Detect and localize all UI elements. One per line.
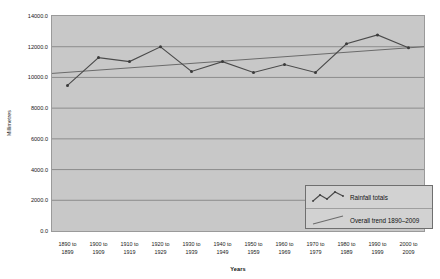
y-tick-label: 10000.0	[4, 74, 48, 80]
data-point-marker	[97, 56, 100, 59]
data-point-marker	[283, 63, 286, 66]
x-tick-label: 1930 to1939	[183, 240, 201, 256]
trend-line-path	[52, 47, 424, 74]
data-point-marker	[159, 45, 162, 48]
legend-label-rainfall-totals: Rainfall totals	[350, 194, 388, 201]
data-point-marker	[407, 46, 410, 49]
data-point-marker	[314, 71, 317, 74]
data-point-marker	[376, 33, 379, 36]
legend-item-overall-trend: Overall trend 1890–2009	[306, 208, 432, 231]
y-tick-label: 2000.0	[4, 197, 48, 203]
data-point-marker	[190, 70, 193, 73]
x-tick-label: 1940 to1949	[214, 240, 232, 256]
data-point-marker	[66, 84, 69, 87]
data-point-marker	[128, 60, 131, 63]
y-tick-label: 14000.0	[4, 13, 48, 19]
x-tick-label: 1980 to1989	[338, 240, 356, 256]
chart-legend: Rainfall totals Overall trend 1890–2009	[305, 185, 433, 229]
y-tick-label: 4000.0	[4, 167, 48, 173]
x-tick-label: 1950 to1959	[245, 240, 263, 256]
y-tick-label: 0.0	[4, 228, 48, 234]
legend-swatch-straight-line-icon	[311, 213, 345, 227]
x-tick-label: 1990 to1999	[369, 240, 387, 256]
trend-line-series	[52, 47, 424, 74]
x-tick-label: 1890 to1899	[59, 240, 77, 256]
x-tick-label: 1970 to1979	[307, 240, 325, 256]
x-tick-label: 1960 to1969	[276, 240, 294, 256]
data-point-marker	[221, 60, 224, 63]
x-tick-label: 1910 to1919	[121, 240, 139, 256]
x-tick-label: 1900 to1909	[90, 240, 108, 256]
x-tick-label: 2000 to2009	[400, 240, 418, 256]
data-point-marker	[345, 42, 348, 45]
rainfall-line-chart: 0.02000.04000.06000.08000.010000.012000.…	[0, 0, 440, 279]
legend-item-rainfall-totals: Rainfall totals	[306, 186, 432, 208]
x-axis-title: Years	[51, 266, 425, 272]
y-axis-title: Millimetres	[6, 93, 12, 153]
x-tick-label: 1920 to1929	[152, 240, 170, 256]
legend-label-overall-trend: Overall trend 1890–2009	[350, 217, 419, 224]
data-point-marker	[252, 71, 255, 74]
legend-swatch-zigzag-icon	[311, 190, 345, 204]
y-tick-label: 12000.0	[4, 44, 48, 50]
